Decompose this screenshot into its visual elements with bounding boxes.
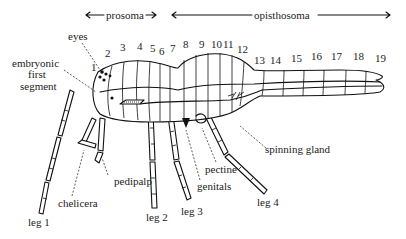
leg3-label: leg 3 <box>181 205 203 217</box>
segment-number: 17 <box>331 50 343 62</box>
segment-number: 3 <box>120 41 126 53</box>
segment-number: 7 <box>170 42 176 54</box>
leg-3 <box>168 115 191 200</box>
segment-number: 14 <box>270 54 282 66</box>
segment-number: 11 <box>223 38 234 50</box>
leg-1 <box>39 90 74 214</box>
segment-number: 1 <box>91 61 97 73</box>
spinning-gland-label: spinning gland <box>265 143 331 155</box>
genitals-label: genitals <box>197 180 231 192</box>
segment-label: segment <box>20 80 57 92</box>
segment-number: 16 <box>311 50 323 62</box>
segment-number: 6 <box>159 45 165 57</box>
segment-number: 15 <box>291 52 303 64</box>
segment-number: 4 <box>137 40 143 52</box>
pedipalp <box>95 118 105 163</box>
pectine-label: pectine <box>205 163 237 175</box>
leg-2 <box>148 112 157 208</box>
opisthosoma-label: opisthosoma <box>254 9 310 21</box>
eyes-label: eyes <box>68 30 88 42</box>
leg2-label: leg 2 <box>146 211 168 223</box>
segment-number: 10 <box>211 38 223 50</box>
leg4-label: leg 4 <box>257 196 279 208</box>
segment-number: 5 <box>150 42 156 54</box>
segment-number: 18 <box>353 50 365 62</box>
prosoma-label: prosoma <box>106 9 144 21</box>
body <box>93 53 384 128</box>
segment-number: 19 <box>375 52 387 64</box>
diagram-canvas: prosoma opisthosoma 1 2 3 4 5 6 7 8 9 10… <box>0 0 406 239</box>
segment-number: 8 <box>183 38 189 50</box>
opisthosoma-span: opisthosoma <box>172 9 390 21</box>
pedipalp-label: pedipalp <box>114 175 152 187</box>
first-label: first <box>28 68 46 80</box>
segment-number: 9 <box>199 38 205 50</box>
segment-number: 13 <box>254 54 266 66</box>
segment-number: 2 <box>105 47 111 59</box>
chelicera-label: chelicera <box>58 197 98 209</box>
chelicera <box>78 118 96 148</box>
genitals-marker <box>182 118 190 128</box>
segment-number: 12 <box>237 43 248 55</box>
prosoma-span: prosoma <box>86 9 156 21</box>
leg1-label: leg 1 <box>28 216 50 228</box>
arthropod-diagram: prosoma opisthosoma 1 2 3 4 5 6 7 8 9 10… <box>0 0 406 239</box>
